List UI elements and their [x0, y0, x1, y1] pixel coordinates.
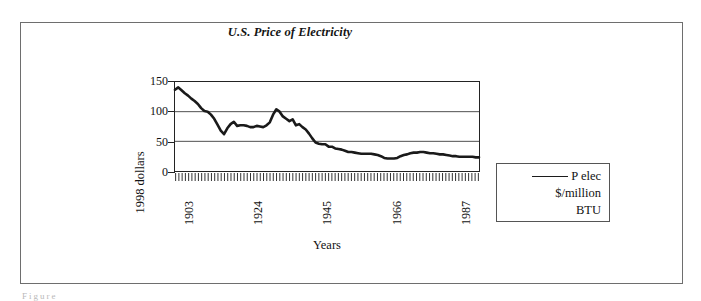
- x-tick-label: 1945: [320, 179, 335, 225]
- x-tick-label: 1903: [182, 179, 197, 225]
- plot-svg: [175, 82, 479, 171]
- chart-title: U.S. Price of Electricity: [40, 25, 540, 40]
- y-axis-title: 1998 dollars: [133, 128, 148, 238]
- data-line-p-elec: [175, 87, 479, 158]
- y-tick-mark: [168, 142, 175, 143]
- legend-line-swatch-icon: [532, 176, 568, 177]
- gridlines: [175, 112, 479, 142]
- y-axis-title-container: 1998 dollars: [118, 81, 138, 172]
- plot-area: [174, 81, 480, 172]
- chart-title-container: U.S. Price of Electricity: [40, 0, 540, 45]
- x-axis-title: Years: [174, 238, 480, 253]
- x-tick-label: 1924: [251, 179, 266, 225]
- legend-label-line-2: $/million: [555, 187, 601, 200]
- figure-caption-remnant: Figure: [22, 291, 58, 301]
- y-tick-mark: [168, 172, 175, 173]
- x-tick-label: 1966: [390, 179, 405, 225]
- legend: P elec $/million BTU: [496, 163, 610, 222]
- x-axis-tick-labels: 19031924194519661987: [174, 183, 480, 229]
- y-tick-label: 150: [134, 75, 168, 87]
- legend-entry: P elec: [497, 168, 601, 185]
- legend-label-line-1: P elec: [571, 170, 601, 183]
- x-tick-label: 1987: [459, 179, 474, 225]
- legend-entry-line-3: BTU: [497, 202, 601, 219]
- y-tick-mark: [168, 81, 175, 82]
- y-tick-mark: [168, 111, 175, 112]
- legend-entry-line-2: $/million: [497, 185, 601, 202]
- legend-label-line-3: BTU: [576, 204, 601, 217]
- data-series-group: [175, 87, 479, 158]
- y-tick-label: 100: [134, 105, 168, 117]
